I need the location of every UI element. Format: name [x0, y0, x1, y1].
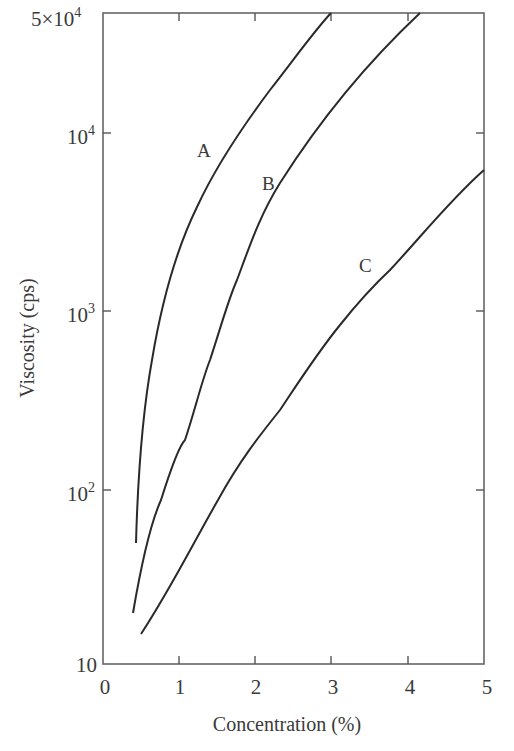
x-tick-label-0: 0	[100, 675, 111, 699]
x-tick-label-2: 2	[251, 675, 262, 699]
y-tick-label-1e2: 102	[67, 480, 95, 506]
plot-frame	[103, 13, 484, 664]
x-axis-title: Concentration (%)	[213, 713, 361, 736]
y-ticks-left	[103, 133, 111, 490]
y-tick-label-1e4: 104	[67, 123, 95, 149]
x-ticks-top	[179, 13, 408, 21]
curve-c	[141, 170, 484, 634]
x-tick-label-5: 5	[482, 675, 493, 699]
curve-label-a: A	[197, 140, 211, 161]
viscosity-chart: A B C 5×104 104 103 102 10 0 1 2 3 4 5 C…	[0, 0, 514, 751]
curve-label-c: C	[359, 255, 372, 276]
y-tick-label-1e3: 103	[67, 301, 95, 327]
y-ticks-right	[476, 133, 484, 490]
x-ticks-bottom	[179, 656, 408, 664]
curve-a	[136, 13, 331, 543]
curve-label-b: B	[262, 173, 275, 194]
curve-b	[133, 13, 420, 613]
y-tick-label-5e4: 5×104	[31, 5, 81, 31]
x-tick-label-1: 1	[175, 675, 186, 699]
x-tick-label-4: 4	[405, 675, 416, 699]
x-tick-label-3: 3	[328, 675, 339, 699]
y-tick-label-10: 10	[76, 653, 97, 677]
y-axis-title: Viscosity (cps)	[16, 278, 39, 397]
